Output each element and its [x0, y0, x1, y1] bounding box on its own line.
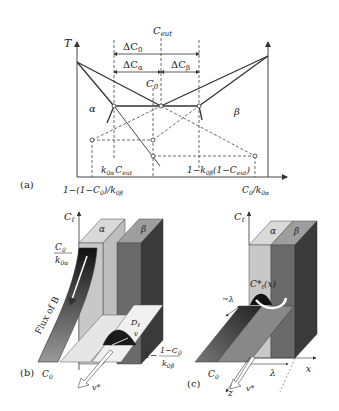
beta-slab-side — [141, 219, 163, 364]
beta-label-c: β — [293, 226, 299, 236]
k-ceut-label: k0αCeut — [101, 165, 133, 176]
right-prefix-b: 1− — [144, 350, 157, 360]
beta-slab-front-c — [271, 245, 295, 358]
cl-axis-label-c: Cℓ — [234, 211, 245, 224]
x-axis-label: x — [306, 364, 311, 374]
beta-label-b: β — [140, 224, 146, 234]
right-den-b: k0β — [162, 359, 175, 370]
cl-axis-label-b: Cℓ — [64, 211, 75, 224]
panel-b-tag: (b) — [20, 367, 34, 378]
panel-b-3d-schematic: Cℓ α β C0 k0α Flux of B Dℓ v C0 1− 1−C0 … — [20, 211, 182, 392]
panel-a-tag: (a) — [20, 179, 34, 190]
delta-cbeta-label: ΔCβ — [171, 59, 190, 72]
c0-label: C0 — [146, 78, 159, 91]
alpha-label-c: α — [270, 226, 276, 236]
c-eut-label: Ceut — [153, 25, 172, 38]
bottom-right-label: C0/k0α — [242, 185, 269, 196]
c0-over-k-den-b: k0α — [55, 255, 68, 266]
c0-label-c: C0 — [208, 369, 219, 380]
velocity-label-b: v* — [92, 383, 101, 392]
beta-region-label: β — [233, 106, 240, 117]
z-axis-label: z — [227, 388, 233, 398]
solvus-alpha — [107, 106, 114, 123]
right-num-b: 1−C0 — [160, 346, 182, 356]
beta-slab-side-c — [295, 221, 317, 358]
alpha-label-b: α — [99, 224, 105, 234]
c0-label-b: C0 — [42, 369, 53, 380]
t-axis-label: T — [64, 37, 73, 50]
construction-points — [90, 104, 257, 158]
lambda-label: λ — [269, 368, 276, 378]
figure-canvas: (a) T Ceut ΔC0 ΔCα ΔCβ C0 α β k0αCeut 1−… — [0, 0, 339, 411]
alpha-region-label: α — [89, 103, 96, 114]
lambda-approx-label: ~λ — [222, 295, 234, 304]
solidus-alpha — [77, 62, 114, 106]
bottom-left-label: 1−(1−C0)/k0β — [63, 185, 124, 197]
panel-c-3d-schematic: Cℓ α β C*ℓ(x) ~λ C0 x z λ v* (c) — [187, 211, 317, 398]
delta-calpha-label: ΔCα — [123, 59, 143, 72]
dl-den: v — [134, 330, 138, 338]
panel-c-tag: (c) — [187, 378, 201, 389]
delta-c0-label: ΔC0 — [123, 41, 142, 54]
c0-over-k-num-b: C0 — [55, 242, 66, 253]
lambda-guide — [280, 358, 295, 392]
cl-star-label: C*ℓ(x) — [250, 279, 276, 290]
solidus-beta — [199, 56, 268, 106]
panel-a-phase-diagram: (a) T Ceut ΔC0 ΔCα ΔCβ C0 α β k0αCeut 1−… — [20, 25, 287, 197]
velocity-label-c: v* — [246, 384, 255, 393]
one-minus-k-ceut-label: 1−k0β(1−Ceut) — [187, 165, 251, 177]
